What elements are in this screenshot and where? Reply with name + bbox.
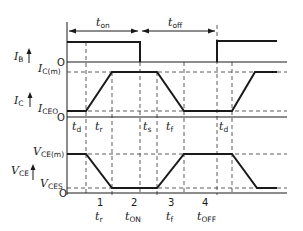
switching-waveform-diagram: ton toff IB O IC IC(m) ICEO O td tr	[0, 0, 303, 231]
vce-zero-label: O	[59, 188, 67, 199]
vce-axis-label: VCE	[11, 164, 29, 178]
bottom-interval-labels: tr tON tf tOFF	[95, 210, 216, 224]
ic-ts-label: ts	[143, 120, 151, 134]
ib-trace: IB O	[13, 41, 287, 68]
ic-tf-label: tf	[166, 120, 173, 134]
vce-up-arrow-icon	[31, 164, 36, 180]
ib-up-arrow-icon	[27, 48, 32, 63]
t-on-dimension: ton	[69, 16, 149, 34]
svg-text:tOFF: tOFF	[197, 210, 216, 224]
region-numbers: 1 2 3 4	[97, 197, 208, 208]
svg-text:1: 1	[97, 197, 103, 208]
svg-text:2: 2	[131, 197, 137, 208]
svg-text:tf: tf	[166, 210, 173, 224]
t-on-label: ton	[96, 16, 110, 30]
ib-axis-label: IB	[13, 50, 24, 64]
ic-axis-label: IC	[13, 94, 24, 108]
ic-zero-label: O	[57, 112, 65, 123]
ic-up-arrow-icon	[28, 92, 33, 107]
svg-text:tr: tr	[95, 210, 103, 224]
vce-max-label: VCE(m)	[33, 145, 64, 159]
svg-text:3: 3	[168, 197, 174, 208]
t-off-dimension: toff	[142, 16, 215, 34]
ic-td-label: td	[72, 120, 81, 134]
ic-td2-label: td	[219, 120, 228, 134]
vce-trace: VCE VCE(m) VCES O	[11, 145, 287, 199]
ic-trace: IC IC(m) ICEO O td tr ts tf td	[13, 62, 287, 134]
svg-text:tON: tON	[125, 210, 141, 224]
svg-text:4: 4	[202, 197, 208, 208]
ic-tr-label: tr	[95, 120, 103, 134]
t-off-label: toff	[168, 16, 183, 30]
ic-ceo-label: ICEO	[37, 102, 58, 116]
